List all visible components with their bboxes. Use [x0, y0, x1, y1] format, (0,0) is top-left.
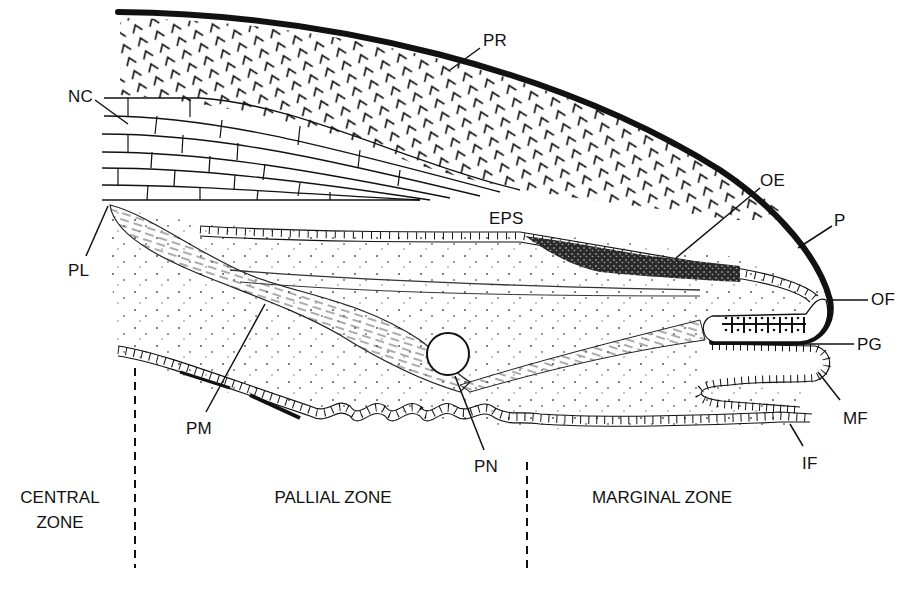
label-pl: PL [68, 262, 89, 279]
label-nc: NC [68, 88, 93, 105]
label-mf: MF [843, 410, 868, 427]
zone-label-central: CENTRAL ZONE [12, 485, 108, 535]
label-eps: EPS [489, 210, 524, 227]
label-pr: PR [483, 32, 507, 49]
mantle-cross-section-diagram [0, 0, 914, 589]
label-p: P [834, 212, 846, 229]
zone-label-marginal: MARGINAL ZONE [582, 485, 742, 510]
label-pg: PG [857, 336, 882, 353]
label-pm: PM [186, 420, 212, 437]
zone-label-pallial: PALLIAL ZONE [258, 485, 408, 510]
pallial-nerve [427, 333, 469, 375]
label-oe: OE [760, 172, 785, 189]
label-of: OF [871, 291, 895, 308]
label-pn: PN [474, 458, 498, 475]
label-if: IF [802, 455, 818, 472]
